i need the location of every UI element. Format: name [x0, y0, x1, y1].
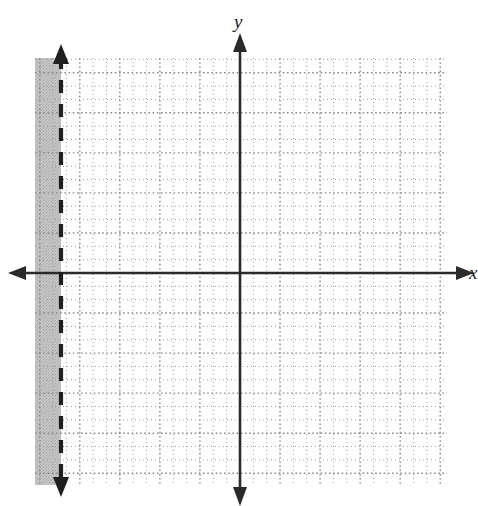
y-axis-label: y	[234, 12, 242, 31]
x-axis-left-arrowhead	[8, 266, 26, 280]
y-axis-up-arrowhead	[233, 33, 247, 52]
boundary-down-arrowhead	[53, 477, 69, 497]
y-axis	[233, 33, 247, 506]
boundary-up-arrowhead	[53, 44, 69, 64]
coordinate-plane-figure: y x	[0, 0, 478, 506]
graph-canvas	[0, 0, 478, 506]
shaded-solution-region	[35, 58, 61, 485]
x-axis-label: x	[469, 263, 477, 282]
y-axis-down-arrowhead	[233, 487, 247, 506]
